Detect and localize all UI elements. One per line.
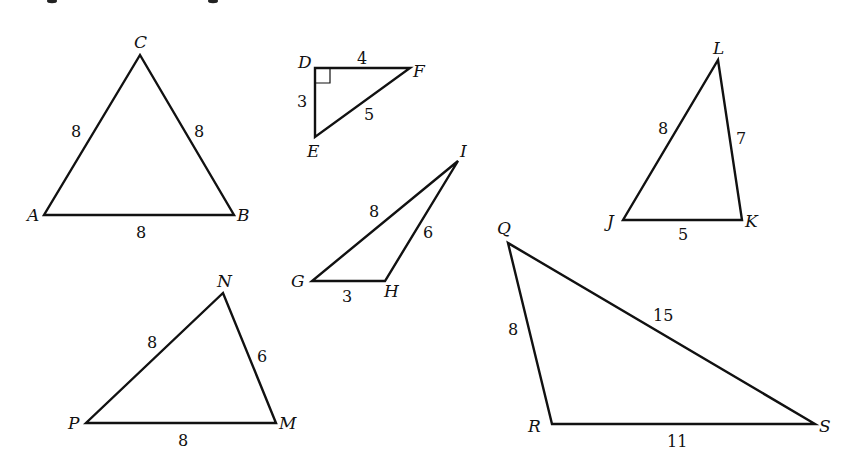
side-label-jk: 5 (678, 225, 688, 244)
side-label-qs: 15 (653, 306, 673, 325)
vertex-label-i: I (459, 141, 467, 161)
right-angle-marker (315, 68, 330, 83)
side-label-de: 3 (297, 92, 307, 111)
triangle-qrs: Q R S 8 15 11 (497, 218, 831, 451)
cropped-text-fragments (47, 0, 218, 3)
side-label-gh: 3 (342, 287, 352, 306)
vertex-label-s: S (819, 416, 831, 436)
triangle-qrs-edges (508, 243, 815, 424)
side-label-nm: 6 (257, 347, 267, 366)
vertex-label-c: C (134, 32, 147, 52)
side-label-ac: 8 (71, 122, 81, 141)
vertex-label-a: A (25, 205, 39, 225)
vertex-label-d: D (297, 52, 312, 72)
triangles-figure: A B C 8 8 8 D E F 4 3 5 G H I 8 6 3 J K … (0, 0, 843, 470)
vertex-label-m: M (278, 413, 297, 433)
vertex-label-n: N (216, 271, 233, 291)
triangle-ghi-edges (312, 161, 458, 281)
vertex-label-l: L (712, 38, 724, 58)
side-label-df: 4 (357, 49, 367, 68)
triangle-jkl-edges (623, 60, 742, 220)
vertex-label-e: E (306, 141, 320, 161)
side-label-ab: 8 (136, 223, 146, 242)
vertex-label-r: R (527, 416, 541, 436)
side-label-ef: 5 (364, 105, 374, 124)
vertex-label-g: G (291, 271, 305, 291)
triangle-jkl: J K L 8 7 5 (604, 38, 759, 244)
vertex-label-h: H (383, 281, 400, 301)
vertex-label-f: F (412, 61, 426, 81)
vertex-label-j: J (604, 211, 615, 231)
vertex-label-b: B (236, 205, 250, 225)
triangle-mnp: M N P 8 6 8 (67, 271, 297, 450)
side-label-rs: 11 (667, 432, 687, 451)
side-label-jl: 8 (658, 119, 668, 138)
side-label-kl: 7 (736, 129, 746, 148)
side-label-gi: 8 (369, 202, 379, 221)
triangle-def: D E F 4 3 5 (297, 49, 426, 161)
side-label-cb: 8 (194, 122, 204, 141)
vertex-label-k: K (744, 211, 759, 231)
triangle-mnp-edges (86, 293, 276, 423)
side-label-pn: 8 (147, 333, 157, 352)
triangle-def-edges (315, 68, 410, 137)
vertex-label-q: Q (497, 218, 511, 238)
side-label-hi: 6 (423, 223, 433, 242)
triangle-ghi: G H I 8 6 3 (291, 141, 467, 306)
vertex-label-p: P (67, 413, 80, 433)
triangle-abc: A B C 8 8 8 (25, 32, 250, 242)
side-label-pm: 8 (178, 431, 188, 450)
side-label-qr: 8 (508, 320, 518, 339)
